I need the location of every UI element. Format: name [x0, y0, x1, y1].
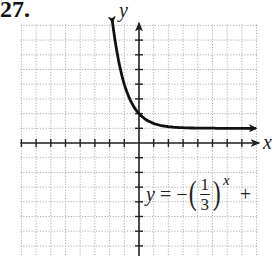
exponential-curve — [113, 22, 256, 128]
y-axis-label: y — [117, 0, 128, 22]
equation-equals: = — [160, 183, 171, 206]
equation-lhs: y — [146, 183, 155, 206]
coordinate-graph: x y — [0, 0, 275, 256]
fraction-denominator: 3 — [201, 196, 210, 213]
equation-sign: − — [176, 183, 187, 206]
equation-label: y = − ( 1 3 ) x + — [146, 176, 251, 213]
open-paren: ( — [189, 176, 197, 210]
fraction-numerator: 1 — [201, 176, 210, 193]
close-paren: ) — [212, 176, 220, 210]
equation-trailing-plus: + — [240, 183, 251, 206]
x-axis-label: x — [262, 131, 272, 153]
fraction: 1 3 — [200, 176, 210, 213]
exponent: x — [223, 172, 230, 189]
